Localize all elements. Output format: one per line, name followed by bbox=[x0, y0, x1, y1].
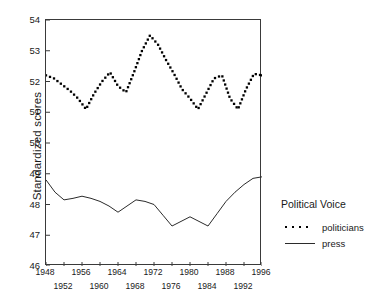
x-tick-label: 1968 bbox=[125, 281, 144, 291]
legend-item-press: press bbox=[285, 235, 371, 251]
x-tick-label: 1988 bbox=[215, 267, 234, 277]
legend-title: Political Voice bbox=[281, 198, 371, 210]
legend-key-dotted bbox=[285, 222, 315, 232]
x-tick-label: 1992 bbox=[233, 281, 252, 291]
x-tick-label: 1984 bbox=[197, 281, 216, 291]
legend-key-solid bbox=[285, 238, 315, 248]
legend-label-press: press bbox=[322, 238, 345, 249]
legend-item-politicians: politicians bbox=[285, 219, 371, 235]
x-tick-label: 1960 bbox=[89, 281, 108, 291]
solid-line-swatch bbox=[285, 243, 315, 244]
chart-figure: Standardized scores 545352515049484746 1… bbox=[0, 0, 373, 307]
x-tick-label: 1956 bbox=[71, 267, 90, 277]
x-tick-label: 1948 bbox=[35, 267, 54, 277]
legend: Political Voice politicians press bbox=[281, 198, 371, 251]
x-tick-label: 1996 bbox=[251, 267, 270, 277]
x-tick-label: 1976 bbox=[161, 281, 180, 291]
x-tick-label: 1980 bbox=[179, 267, 198, 277]
x-tick-label: 1972 bbox=[143, 267, 162, 277]
x-axis-tick-labels: 1948195219561960196419681972197619801984… bbox=[0, 0, 373, 307]
legend-label-politicians: politicians bbox=[322, 222, 364, 233]
x-tick-label: 1964 bbox=[107, 267, 126, 277]
dotted-line-swatch bbox=[285, 226, 315, 228]
x-tick-label: 1952 bbox=[53, 281, 72, 291]
